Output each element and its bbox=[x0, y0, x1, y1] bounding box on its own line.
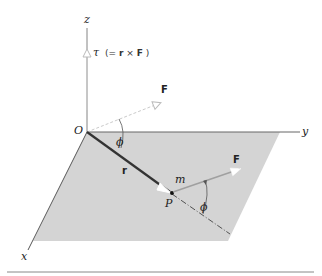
torque-F: F bbox=[137, 48, 143, 58]
torque-symbol: τ bbox=[93, 46, 100, 59]
torque-eq-close: ) bbox=[146, 48, 150, 58]
torque-eq-open: (= bbox=[105, 48, 119, 58]
z-axis-label: z bbox=[83, 13, 90, 26]
x-axis-label: x bbox=[21, 250, 28, 263]
origin-label: O bbox=[74, 124, 83, 137]
force-label-P: F bbox=[233, 154, 240, 165]
torque-times: × bbox=[126, 48, 136, 58]
force-label-origin: F bbox=[161, 84, 168, 95]
angle-label-P: ϕ bbox=[200, 201, 208, 214]
mass-label: m bbox=[175, 173, 185, 186]
position-vector-label: r bbox=[122, 165, 127, 176]
torque-label: τ (= r × F ) bbox=[93, 46, 149, 59]
angle-label-origin: ϕ bbox=[116, 136, 124, 149]
xy-plane bbox=[33, 132, 280, 241]
point-label: P bbox=[164, 197, 173, 210]
torque-r: r bbox=[119, 48, 124, 58]
y-axis-label: y bbox=[301, 125, 309, 138]
torque-diagram: z y x O τ (= r × F ) F F r ϕ ϕ m P bbox=[0, 0, 322, 276]
force-vector-at-origin bbox=[87, 103, 160, 132]
